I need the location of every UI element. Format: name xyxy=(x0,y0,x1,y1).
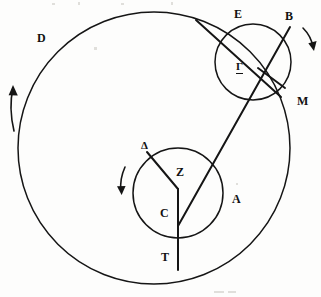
label-point-gamma: Γ xyxy=(236,61,243,74)
epicycle-rotation-arrow-head xyxy=(308,41,316,51)
label-point-delta: Δ xyxy=(141,140,148,151)
deferent-rotation-arrow-head xyxy=(9,85,18,96)
segment-delta-zeta xyxy=(147,152,178,189)
label-point-e: E xyxy=(234,8,242,20)
segment-epsilon-mu-chord xyxy=(196,20,281,97)
scan-speck xyxy=(121,3,124,5)
label-point-c: C xyxy=(160,207,169,219)
scan-speck xyxy=(171,2,173,5)
scan-speck xyxy=(94,47,97,50)
scan-speck xyxy=(236,183,238,185)
label-point-b: B xyxy=(285,10,293,22)
label-point-z: Z xyxy=(176,166,184,178)
inner-circle-rotation-arrow-head xyxy=(117,186,126,195)
label-point-a: A xyxy=(232,193,241,205)
scan-speck xyxy=(214,291,224,293)
label-point-m: M xyxy=(297,95,308,107)
scan-speck xyxy=(52,3,55,5)
diagram-canvas: D E B Γ M Δ Z C A T xyxy=(0,0,321,297)
label-point-d: D xyxy=(37,32,46,44)
deferent-circle xyxy=(18,12,290,284)
epicycle-circle xyxy=(215,24,291,100)
scan-speck xyxy=(78,2,80,5)
scan-speck xyxy=(228,291,236,293)
label-point-t: T xyxy=(161,251,169,263)
